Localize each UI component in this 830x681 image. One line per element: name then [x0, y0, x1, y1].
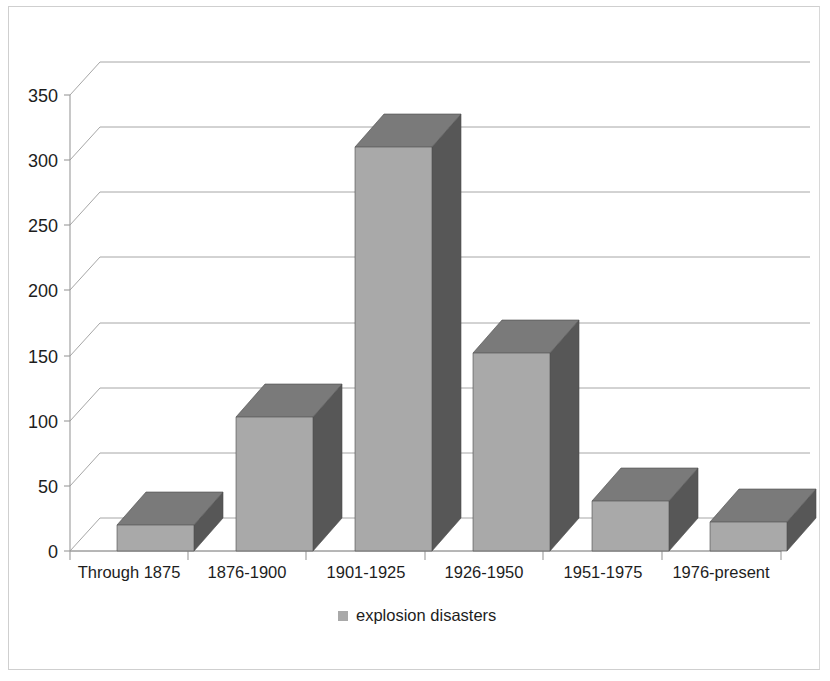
y-tick-label-300: 300 — [28, 151, 58, 171]
x-tick-label-1876-1900: 1876-1900 — [208, 563, 287, 581]
x-tick-label-group: Through 1875 1876-1900 1901-1925 1926-19… — [78, 563, 770, 581]
bar-side-face-3 — [432, 114, 461, 551]
y-tick-label-350: 350 — [28, 86, 58, 106]
legend-label-explosion-disasters: explosion disasters — [356, 606, 496, 624]
y-tick-label-250: 250 — [28, 216, 58, 236]
x-tick-label-1901-1925: 1901-1925 — [327, 563, 406, 581]
gridline-350 — [70, 62, 810, 95]
bar-front-face-2 — [236, 417, 313, 551]
bar-front-face-3 — [355, 147, 432, 551]
y-tick-label-50: 50 — [38, 477, 58, 497]
bar-1926-1950[interactable] — [473, 320, 579, 551]
x-axis — [70, 551, 781, 560]
y-tick-label-0: 0 — [48, 542, 58, 562]
x-tick-label-1951-1975: 1951-1975 — [564, 563, 643, 581]
bar-front-face-5 — [592, 501, 669, 551]
bar-1976-present[interactable] — [710, 489, 816, 551]
bar-front-face-6 — [710, 522, 787, 551]
x-tick-label-1926-1950: 1926-1950 — [445, 563, 524, 581]
screenshot-page: 350 300 250 200 150 100 50 0 — [0, 0, 830, 681]
x-tick-label-through-1875: Through 1875 — [78, 563, 181, 581]
y-tick-label-100: 100 — [28, 412, 58, 432]
bar-front-face-1 — [117, 525, 194, 551]
bar-1901-1925[interactable] — [355, 114, 461, 551]
legend-swatch-icon — [338, 611, 348, 621]
y-tick-label-200: 200 — [28, 281, 58, 301]
x-tick-label-1976-present: 1976-present — [672, 563, 770, 581]
bar-front-face-4 — [473, 353, 550, 551]
bar-side-face-4 — [550, 320, 579, 551]
y-tick-label-150: 150 — [28, 347, 58, 367]
bar-1951-1975[interactable] — [592, 468, 698, 551]
bar-through-1875[interactable] — [117, 492, 223, 551]
y-axis: 350 300 250 200 150 100 50 0 — [28, 86, 70, 562]
bar-1876-1900[interactable] — [236, 384, 342, 551]
chart-legend: explosion disasters — [338, 606, 496, 624]
bar-chart-3d: 350 300 250 200 150 100 50 0 — [0, 0, 830, 681]
